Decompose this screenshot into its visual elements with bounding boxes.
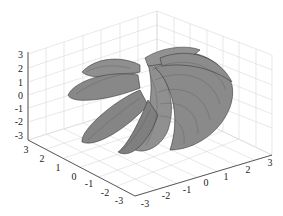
svg-text:-3: -3 xyxy=(141,198,149,209)
svg-text:-2: -2 xyxy=(101,187,109,198)
svg-text:0: 0 xyxy=(72,171,77,182)
svg-text:3: 3 xyxy=(18,49,23,60)
svg-text:-3: -3 xyxy=(15,130,23,141)
surface-plot-3d: 3 2 1 0 -1 -2 -3 3 2 1 0 -1 -2 -3 -3 -2 … xyxy=(0,0,283,216)
y-axis-ticks: 3 2 1 0 -1 -2 -3 xyxy=(24,144,124,206)
svg-text:1: 1 xyxy=(224,171,229,182)
svg-text:1: 1 xyxy=(56,162,61,173)
svg-text:-3: -3 xyxy=(115,195,123,206)
x-axis-ticks: -3 -2 -1 0 1 2 3 xyxy=(141,157,273,209)
svg-text:0: 0 xyxy=(204,177,209,188)
svg-text:-1: -1 xyxy=(85,178,93,189)
svg-text:-1: -1 xyxy=(15,103,23,114)
surface-petals xyxy=(68,47,233,154)
svg-text:3: 3 xyxy=(24,144,29,155)
svg-text:2: 2 xyxy=(40,153,45,164)
svg-text:-2: -2 xyxy=(15,116,23,127)
svg-text:2: 2 xyxy=(246,164,251,175)
svg-text:-2: -2 xyxy=(162,190,170,201)
svg-text:1: 1 xyxy=(18,77,23,88)
svg-text:2: 2 xyxy=(18,63,23,74)
svg-text:0: 0 xyxy=(18,90,23,101)
svg-text:3: 3 xyxy=(268,157,273,168)
z-axis-ticks: 3 2 1 0 -1 -2 -3 xyxy=(15,49,23,141)
svg-text:-1: -1 xyxy=(183,184,191,195)
